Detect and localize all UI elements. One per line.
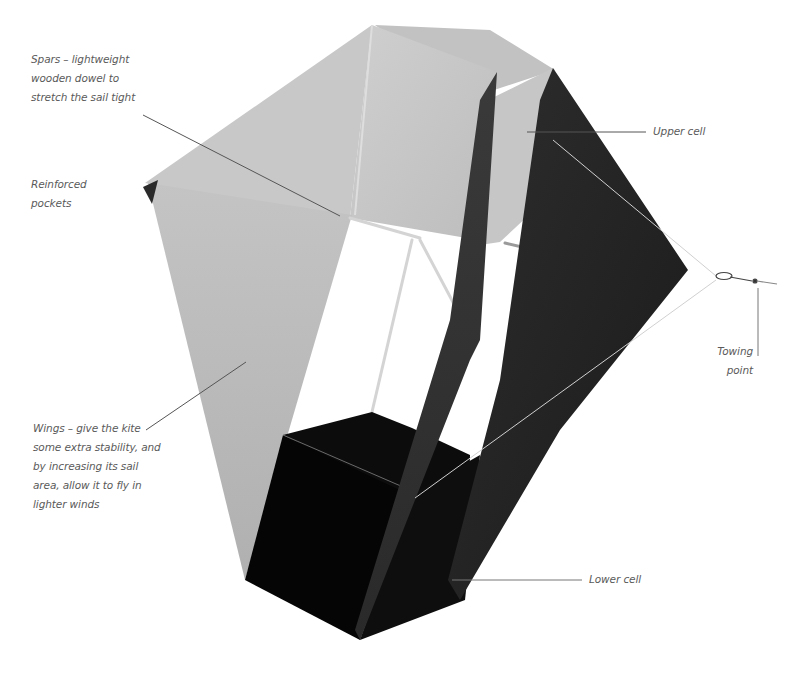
label-wings-line-3: by increasing its sail <box>33 457 161 476</box>
label-towing-point: Towing point <box>700 342 753 380</box>
label-upper-cell: Upper cell <box>653 122 705 141</box>
label-spars-line-1: Spars – lightweight <box>31 50 135 69</box>
label-lower-cell-line-1: Lower cell <box>589 570 641 589</box>
label-reinforced-pockets-line-1: Reinforced <box>31 175 87 194</box>
towing-clip-icon <box>716 273 777 285</box>
label-lower-cell: Lower cell <box>589 570 641 589</box>
vertical-spar <box>372 240 412 412</box>
label-wings-line-2: some extra stability, and <box>33 438 161 457</box>
label-wings-line-5: lighter winds <box>33 495 161 514</box>
label-wings: Wings – give the kite some extra stabili… <box>33 419 161 514</box>
label-wings-line-1: Wings – give the kite <box>33 419 161 438</box>
label-spars: Spars – lightweight wooden dowel to stre… <box>31 50 135 107</box>
label-reinforced-pockets-line-2: pockets <box>31 194 87 213</box>
label-upper-cell-line-1: Upper cell <box>653 122 705 141</box>
label-wings-line-4: area, allow it to fly in <box>33 476 161 495</box>
label-spars-line-3: stretch the sail tight <box>31 88 135 107</box>
label-spars-line-2: wooden dowel to <box>31 69 135 88</box>
label-reinforced-pockets: Reinforced pockets <box>31 175 87 213</box>
label-towing-point-line-2: point <box>700 361 753 380</box>
label-towing-point-line-1: Towing <box>700 342 753 361</box>
